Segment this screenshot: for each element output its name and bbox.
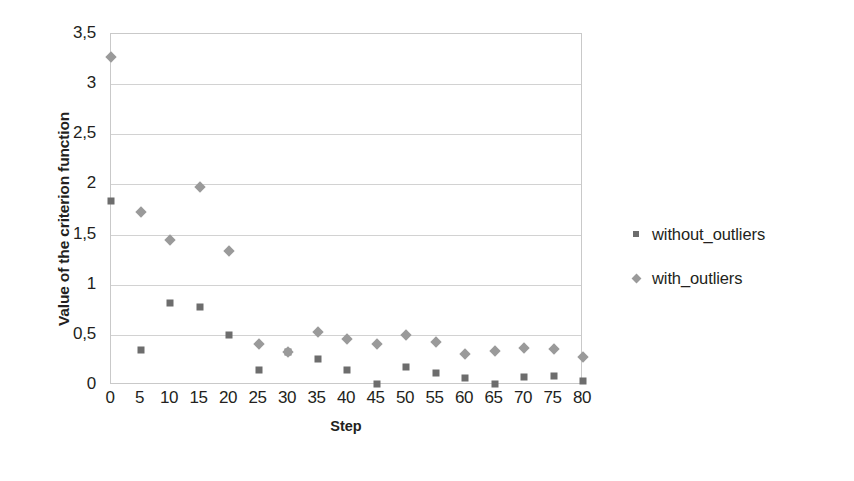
- diamond-marker-icon: [371, 338, 382, 349]
- y-tick-label: 3,5: [44, 23, 96, 43]
- diamond-marker-icon: [489, 345, 500, 356]
- legend-swatch-shape: [631, 273, 641, 283]
- legend-label: without_outliers: [652, 225, 765, 244]
- y-axis-tick-labels: 00,511,522,533,5: [44, 0, 96, 481]
- square-marker-icon: [226, 331, 233, 338]
- x-tick-label: 25: [248, 388, 266, 408]
- y-tick-label: 2,5: [44, 123, 96, 143]
- square-marker-icon: [491, 380, 498, 387]
- square-marker-icon: [580, 377, 587, 384]
- legend-label: with_outliers: [652, 269, 742, 288]
- x-tick-label: 15: [189, 388, 207, 408]
- square-marker-icon: [196, 303, 203, 310]
- x-tick-label: 40: [337, 388, 355, 408]
- square-marker-icon: [373, 380, 380, 387]
- gridline: [111, 235, 581, 236]
- gridline: [111, 134, 581, 135]
- x-tick-label: 60: [455, 388, 473, 408]
- x-tick-label: 30: [278, 388, 296, 408]
- x-tick-label: 5: [135, 388, 144, 408]
- x-tick-label: 10: [160, 388, 178, 408]
- x-tick-label: 70: [514, 388, 532, 408]
- gridline: [111, 84, 581, 85]
- x-axis-tick-labels: 05101520253035404550556065707580: [110, 388, 582, 414]
- diamond-marker-icon: [577, 351, 588, 362]
- diamond-marker-icon: [400, 329, 411, 340]
- x-tick-label: 50: [396, 388, 414, 408]
- diamond-marker-icon: [135, 206, 146, 217]
- x-tick-label: 80: [573, 388, 591, 408]
- y-tick-label: 1,5: [44, 224, 96, 244]
- square-marker-icon: [403, 363, 410, 370]
- gridline: [111, 285, 581, 286]
- chart-legend: without_outlierswith_outliers: [628, 212, 838, 300]
- square-marker-icon: [344, 366, 351, 373]
- plot-area: [110, 33, 582, 384]
- square-marker-icon: [167, 299, 174, 306]
- y-tick-label: 1: [44, 274, 96, 294]
- y-tick-label: 2: [44, 173, 96, 193]
- diamond-marker-icon: [223, 245, 234, 256]
- square-marker-icon: [462, 374, 469, 381]
- x-tick-label: 55: [425, 388, 443, 408]
- scatter-chart-figure: Value of the criterion function 00,511,5…: [0, 0, 854, 481]
- diamond-marker-icon: [459, 348, 470, 359]
- x-tick-label: 20: [219, 388, 237, 408]
- diamond-marker-icon: [253, 338, 264, 349]
- gridline: [111, 184, 581, 185]
- square-marker-icon: [137, 346, 144, 353]
- diamond-marker-icon: [628, 275, 644, 282]
- square-marker-icon: [550, 372, 557, 379]
- diamond-marker-icon: [430, 336, 441, 347]
- square-marker-icon: [628, 231, 644, 237]
- square-marker-icon: [108, 198, 115, 205]
- square-marker-icon: [255, 366, 262, 373]
- x-axis-title: Step: [110, 418, 582, 434]
- y-tick-label: 0,5: [44, 324, 96, 344]
- legend-swatch-shape: [633, 231, 639, 237]
- x-tick-label: 65: [484, 388, 502, 408]
- legend-entry: without_outliers: [628, 212, 838, 256]
- x-tick-label: 75: [543, 388, 561, 408]
- y-tick-label: 3: [44, 73, 96, 93]
- legend-entry: with_outliers: [628, 256, 838, 300]
- y-tick-label: 0: [44, 374, 96, 394]
- square-marker-icon: [432, 369, 439, 376]
- square-marker-icon: [314, 355, 321, 362]
- x-tick-label: 35: [307, 388, 325, 408]
- x-tick-label: 45: [366, 388, 384, 408]
- diamond-marker-icon: [164, 234, 175, 245]
- diamond-marker-icon: [518, 342, 529, 353]
- diamond-marker-icon: [548, 343, 559, 354]
- square-marker-icon: [521, 373, 528, 380]
- diamond-marker-icon: [105, 51, 116, 62]
- x-tick-label: 0: [105, 388, 114, 408]
